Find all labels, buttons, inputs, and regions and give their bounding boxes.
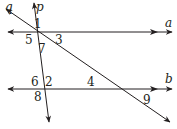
label-a: a — [165, 16, 172, 30]
angle-2: 2 — [45, 75, 53, 89]
label-q: q — [5, 0, 13, 14]
angle-7: 7 — [38, 42, 46, 56]
angle-1: 1 — [34, 17, 42, 31]
angle-6: 6 — [31, 75, 39, 89]
label-p: p — [36, 0, 44, 14]
angle-9: 9 — [143, 93, 151, 107]
angle-3: 3 — [55, 33, 63, 47]
label-b: b — [165, 72, 173, 86]
angle-5: 5 — [25, 33, 33, 47]
angle-8: 8 — [34, 90, 42, 104]
diagram-canvas: q p a b 1 3 5 7 6 2 8 4 9 — [0, 0, 177, 129]
angle-4: 4 — [87, 75, 95, 89]
